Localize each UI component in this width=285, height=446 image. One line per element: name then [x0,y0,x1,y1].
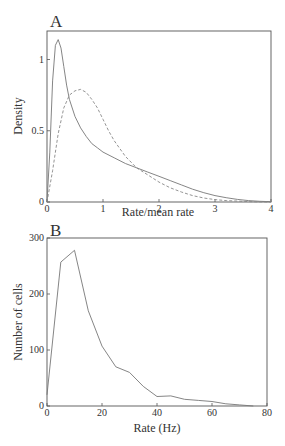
y-tick-label: 0 [39,400,44,411]
x-tick-label: 1 [101,203,106,214]
y-tick-label: 200 [29,288,44,299]
panel-b-frame [47,238,267,406]
panel-b: B 0204060800100200300 Rate (Hz) Number o… [11,221,272,435]
y-tick-label: 100 [29,344,44,355]
x-tick-label: 60 [207,407,217,418]
x-tick-label: 80 [262,407,272,418]
panel-a-solid-curve [47,40,271,202]
panel-a-dashed-curve [47,89,271,202]
x-tick-label: 0 [45,203,50,214]
figure: A 0123400.51 Rate/mean rate Density B 02… [0,0,285,446]
y-tick-label: 300 [29,232,44,243]
panel-a: A 0123400.51 Rate/mean rate Density [11,12,274,219]
y-tick-label: 0 [39,196,44,207]
x-tick-label: 0 [45,407,50,418]
panel-b-ticks: 0204060800100200300 [29,232,272,418]
x-tick-label: 20 [97,407,107,418]
panel-b-xlabel: Rate (Hz) [134,421,181,435]
x-tick-label: 40 [152,407,162,418]
panel-b-ylabel: Number of cells [11,283,25,361]
panel-b-curve [47,250,253,406]
x-tick-label: 4 [269,203,274,214]
x-tick-label: 3 [213,203,218,214]
panel-a-xlabel: Rate/mean rate [122,205,194,219]
panel-a-label: A [50,12,63,31]
panel-a-ticks: 0123400.51 [32,54,274,215]
panel-a-ylabel: Density [11,97,25,134]
panel-b-label: B [50,221,61,240]
y-tick-label: 1 [39,54,44,65]
y-tick-label: 0.5 [32,125,45,136]
